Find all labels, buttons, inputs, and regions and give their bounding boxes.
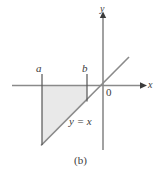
axis-tick-label-a: a [36,63,42,74]
y-axis-label: y [100,4,104,14]
x-axis-label: x [148,80,152,90]
figure-caption: (b) [0,155,161,166]
x-axis-arrow-icon [140,82,147,89]
axis-tick-label-b: b [82,63,88,74]
figure-panel: a b x y 0 y = x (b) [0,0,161,176]
coordinate-plot [0,0,161,176]
line-equation-label: y = x [69,116,92,127]
origin-label: 0 [106,87,112,98]
